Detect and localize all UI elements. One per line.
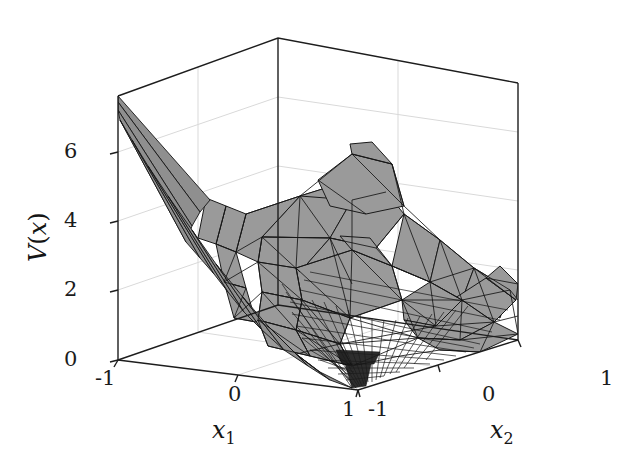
tick-z-2 [110,290,118,292]
x1-axis-title-variable: x [212,416,226,444]
x2-axis-title-subscript: 2 [504,429,514,448]
x1-tick-label-1: 1 [342,399,355,420]
z-axis-title-close: ) [24,212,52,221]
surface-plot-figure: 0 2 4 6 -1 0 1 -1 0 1 V(x) x1 x2 [0,0,633,469]
z-axis-title-function: V [24,245,52,262]
z-tick-label-6: 6 [64,141,77,162]
x1-axis-title: x1 [212,418,236,447]
x2-axis-title: x2 [490,418,514,447]
tick-z-6 [110,152,118,154]
tick-x1-0 [235,375,238,382]
z-tick-label-4: 4 [64,210,77,231]
z-axis-title-open: ( [24,235,52,244]
tick-x2-1 [518,340,521,347]
x2-tick-label-1: 1 [600,368,613,389]
tick-x2-minus1 [358,390,360,397]
z-tick-label-2: 2 [64,279,77,300]
x1-axis-title-subscript: 1 [226,429,236,448]
tick-z-4 [110,221,118,223]
x2-tick-label-minus1: -1 [368,399,388,420]
x1-tick-label-minus1: -1 [95,368,115,389]
tick-x2-0 [438,365,440,372]
z-tick-label-0: 0 [64,349,77,370]
z-axis-title-variable: x [24,222,52,236]
x2-axis-title-variable: x [490,416,504,444]
plot-canvas [0,0,633,469]
z-axis-title: V(x) [26,212,50,262]
x2-tick-label-0: 0 [482,384,495,405]
x1-tick-label-0: 0 [228,384,241,405]
